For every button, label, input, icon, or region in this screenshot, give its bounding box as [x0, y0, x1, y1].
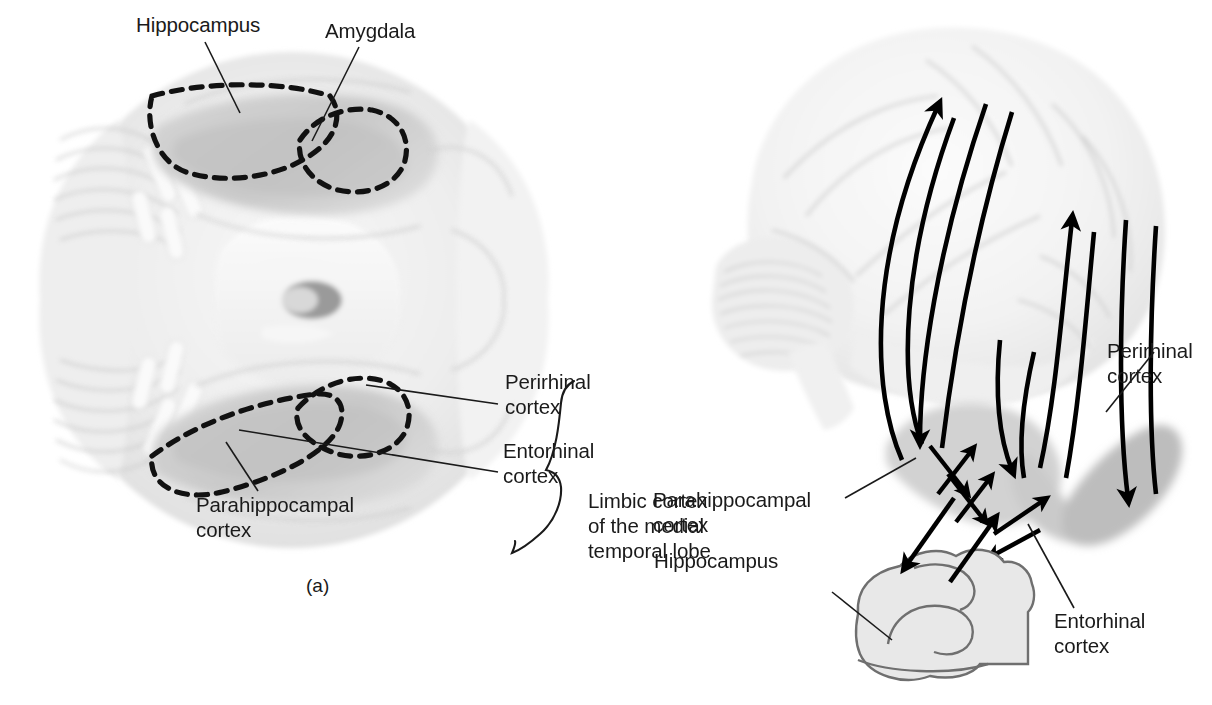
panel-b-lateral-view: Perirhinal cortex Parahippocampal cortex… [620, 0, 1212, 705]
label-hippocampus-a: Hippocampus [136, 12, 260, 37]
label-entorhinal-cortex-a: Entorhinal cortex [503, 438, 594, 488]
panel-a-artwork [0, 0, 640, 705]
medial-temporal-gray-band [886, 403, 1182, 545]
label-perirhinal-cortex-a: Perirhinal cortex [505, 369, 591, 419]
label-parahippocampal-cortex-a: Parahippocampal cortex [196, 492, 354, 542]
label-entorhinal-cortex-b: Entorhinal cortex [1054, 608, 1145, 658]
label-amygdala-a: Amygdala [325, 18, 415, 43]
panel-a-ventral-view: Hippocampus Amygdala Perirhinal cortex E… [0, 0, 640, 705]
hippocampus-shape [856, 550, 1034, 680]
panel-a-letter: (a) [306, 575, 329, 597]
label-parahippocampal-cortex-b: Parahippocampal cortex [653, 487, 811, 537]
label-hippocampus-b: Hippocampus [654, 548, 778, 573]
figure-limbic-cortex-medial-temporal-lobe: Hippocampus Amygdala Perirhinal cortex E… [0, 0, 1212, 705]
label-perirhinal-cortex-b: Perirhinal cortex [1107, 338, 1193, 388]
